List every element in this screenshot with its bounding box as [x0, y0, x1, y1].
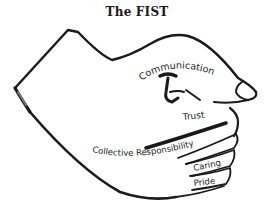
hand-outline [15, 30, 256, 199]
label-communication: Communication [137, 59, 216, 82]
label-collective-responsibility: Collective Responsibility [92, 138, 195, 158]
label-trust: Trust [181, 110, 205, 122]
fist-illustration: Communication Trust Collective Responsib… [0, 0, 274, 214]
